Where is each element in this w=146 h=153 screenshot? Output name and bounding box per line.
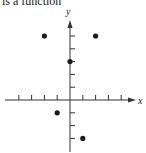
x-axis-arrow-icon — [128, 98, 136, 103]
y-axis-label: y — [65, 6, 71, 17]
data-point — [80, 136, 85, 141]
axes — [5, 20, 136, 152]
data-point — [93, 33, 98, 38]
y-axis-arrow-icon — [68, 20, 73, 28]
data-point — [55, 110, 60, 115]
data-point — [67, 59, 72, 64]
x-axis-label: x — [137, 95, 143, 106]
coordinate-plot: x y — [0, 0, 146, 153]
data-point — [42, 33, 47, 38]
